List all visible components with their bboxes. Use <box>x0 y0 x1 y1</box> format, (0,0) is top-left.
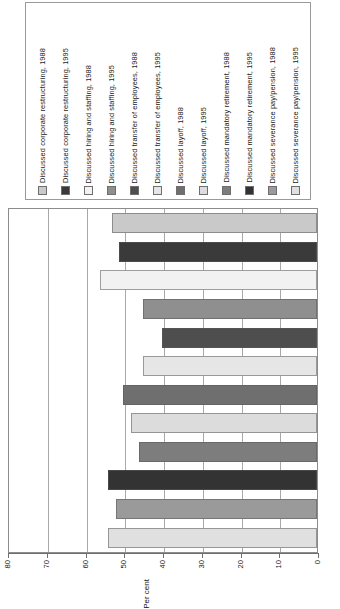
legend-item-label: Discussed transfer of employees, 1988 <box>131 52 138 183</box>
bar-row <box>9 354 317 378</box>
legend-items-container: Discussed corporate restructuring, 1988D… <box>26 3 312 201</box>
bar[interactable] <box>123 385 317 405</box>
bar[interactable] <box>116 499 318 519</box>
legend-swatch-icon <box>107 186 116 195</box>
legend-swatch-icon <box>130 186 139 195</box>
legend-swatch-icon <box>176 186 185 195</box>
bar-row <box>9 268 317 292</box>
bar[interactable] <box>108 470 317 490</box>
bars-container <box>9 209 317 552</box>
legend-item[interactable]: Discussed hiring and staffing, 1988 <box>77 5 100 197</box>
legend-item[interactable]: Discussed mandatory retirement, 1995 <box>238 5 261 197</box>
bar-row <box>9 411 317 435</box>
legend-swatch-icon <box>268 186 277 195</box>
legend-item[interactable]: Discussed corporate restructuring, 1995 <box>54 5 77 197</box>
axis-tick-label: 0 <box>314 560 322 564</box>
legend-swatch-icon <box>222 186 231 195</box>
legend-item[interactable]: Discussed hiring and staffing, 1995 <box>100 5 123 197</box>
legend-item[interactable]: Discussed layoff, 1988 <box>169 5 192 197</box>
bar[interactable] <box>100 270 317 290</box>
bar[interactable] <box>139 442 317 462</box>
axis-tick-label: 20 <box>237 560 245 568</box>
legend-item-label: Discussed layoff, 1988 <box>177 107 184 183</box>
legend-item-label: Discussed corporate restructuring, 1995 <box>62 48 69 183</box>
plot-frame <box>8 208 318 553</box>
bar[interactable] <box>119 242 317 262</box>
bar-row <box>9 468 317 492</box>
bar-row <box>9 383 317 407</box>
legend-item-label: Discussed hiring and staffing, 1995 <box>108 65 115 183</box>
chart-legend: Discussed corporate restructuring, 1988D… <box>25 2 311 200</box>
legend-swatch-icon <box>199 186 208 195</box>
legend-swatch-icon <box>38 186 47 195</box>
bar-row <box>9 326 317 350</box>
legend-item-label: Discussed severance pay/pension, 1988 <box>269 47 276 183</box>
legend-item-label: Discussed layoff, 1995 <box>200 107 207 183</box>
axis-tick <box>124 553 125 558</box>
axis-tick-label: 30 <box>198 560 206 568</box>
bar-row <box>9 497 317 521</box>
bar[interactable] <box>112 213 317 233</box>
legend-item[interactable]: Discussed layoff, 1995 <box>192 5 215 197</box>
value-axis: Per cent 01020304050607080 <box>8 553 318 593</box>
axis-tick-label: 60 <box>82 560 90 568</box>
axis-tick-label: 80 <box>4 560 12 568</box>
legend-item[interactable]: Discussed severance pay/pension, 1995 <box>284 5 307 197</box>
legend-item[interactable]: Discussed transfer of employees, 1995 <box>146 5 169 197</box>
bar-row <box>9 297 317 321</box>
axis-tick <box>8 553 9 558</box>
axis-tick-label: 70 <box>43 560 51 568</box>
bar[interactable] <box>143 299 317 319</box>
bar[interactable] <box>162 328 317 348</box>
bar[interactable] <box>143 356 317 376</box>
legend-item-label: Discussed corporate restructuring, 1988 <box>39 48 46 183</box>
legend-swatch-icon <box>153 186 162 195</box>
bar[interactable] <box>108 528 317 548</box>
legend-item-label: Discussed hiring and staffing, 1988 <box>85 65 92 183</box>
legend-item-label: Discussed mandatory retirement, 1995 <box>246 52 253 183</box>
legend-item[interactable]: Discussed mandatory retirement, 1988 <box>215 5 238 197</box>
axis-tick-label: 40 <box>159 560 167 568</box>
chart-area: Per cent 01020304050607080 <box>0 205 340 590</box>
axis-tick <box>47 553 48 558</box>
legend-swatch-icon <box>245 186 254 195</box>
axis-tick <box>318 553 319 558</box>
bar-row <box>9 526 317 550</box>
legend-swatch-icon <box>61 186 70 195</box>
axis-tick <box>86 553 87 558</box>
legend-item-label: Discussed transfer of employees, 1995 <box>154 52 161 183</box>
bar-row <box>9 440 317 464</box>
axis-tick <box>241 553 242 558</box>
legend-swatch-icon <box>291 186 300 195</box>
axis-title: Per cent <box>143 579 151 609</box>
axis-tick <box>202 553 203 558</box>
legend-item[interactable]: Discussed transfer of employees, 1988 <box>123 5 146 197</box>
axis-tick-label: 10 <box>275 560 283 568</box>
legend-item[interactable]: Discussed corporate restructuring, 1988 <box>31 5 54 197</box>
bar-row <box>9 240 317 264</box>
axis-tick-label: 50 <box>120 560 128 568</box>
bar[interactable] <box>131 413 317 433</box>
bar-row <box>9 211 317 235</box>
legend-item-label: Discussed severance pay/pension, 1995 <box>292 47 299 183</box>
axis-tick <box>279 553 280 558</box>
legend-item-label: Discussed mandatory retirement, 1988 <box>223 52 230 183</box>
legend-swatch-icon <box>84 186 93 195</box>
axis-tick <box>163 553 164 558</box>
legend-item[interactable]: Discussed severance pay/pension, 1988 <box>261 5 284 197</box>
